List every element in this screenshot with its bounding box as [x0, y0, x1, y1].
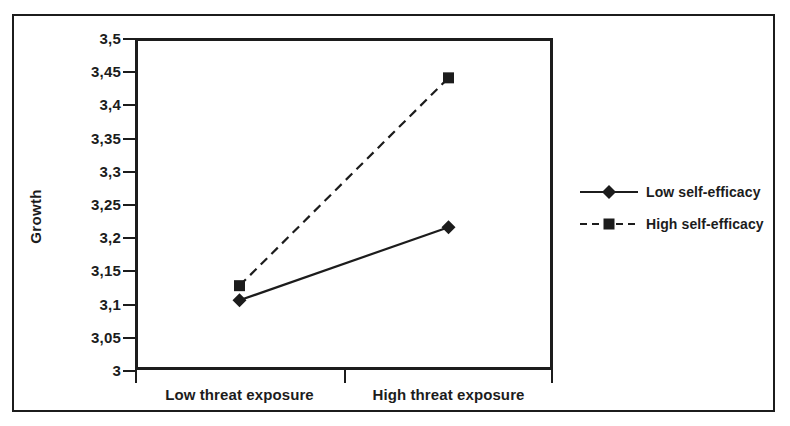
y-axis-title-label: Growth — [27, 189, 44, 243]
y-axis-tick-labels: 33,053,13,153,23,253,33,353,43,453,5 — [55, 38, 121, 370]
square-marker-icon — [604, 219, 615, 230]
chart-legend: Low self-efficacyHigh self-efficacy — [578, 176, 768, 240]
legend-swatch — [578, 215, 640, 233]
y-axis-title: Growth — [22, 156, 48, 276]
series-low-self-efficacy — [233, 220, 456, 307]
y-axis-tick-label: 3,2 — [100, 230, 121, 245]
x-axis-label-low-threat: Low threat exposure — [135, 386, 344, 408]
y-axis-tick-label: 3,45 — [91, 64, 121, 79]
x-axis-tick-mark — [135, 370, 137, 383]
y-axis-tick-label: 3,25 — [91, 197, 121, 212]
y-axis-tick-label: 3,05 — [91, 329, 121, 344]
legend-item-label: Low self-efficacy — [640, 184, 761, 200]
legend-item-label: High self-efficacy — [640, 216, 764, 232]
y-axis-tick-label: 3,35 — [91, 130, 121, 145]
series-line — [240, 227, 449, 300]
y-axis-tick-label: 3 — [112, 363, 121, 378]
chart-figure: Growth 33,053,13,153,23,253,33,353,43,45… — [0, 0, 790, 426]
plot-series-layer — [135, 38, 553, 370]
series-high-self-efficacy — [234, 72, 454, 291]
y-axis-tick-label: 3,15 — [91, 263, 121, 278]
x-axis-tick-marks — [135, 370, 553, 384]
x-axis-tick-mark — [551, 370, 553, 383]
diamond-marker-icon — [442, 220, 456, 234]
square-marker-icon — [234, 280, 245, 291]
series-line — [240, 78, 449, 286]
x-axis-label-high-threat: High threat exposure — [344, 386, 553, 408]
x-axis-tick-labels: Low threat exposure High threat exposure — [135, 386, 553, 408]
diamond-marker-icon — [602, 185, 616, 199]
legend-swatch — [578, 183, 640, 201]
y-axis-tick-label: 3,4 — [100, 97, 121, 112]
y-axis-tick-label: 3,5 — [100, 31, 121, 46]
legend-item[interactable]: Low self-efficacy — [578, 176, 768, 208]
diamond-marker-icon — [233, 293, 247, 307]
square-marker-icon — [443, 72, 454, 83]
y-axis-tick-label: 3,3 — [100, 163, 121, 178]
x-axis-tick-mark — [344, 370, 346, 383]
legend-item[interactable]: High self-efficacy — [578, 208, 768, 240]
y-axis-tick-label: 3,1 — [100, 296, 121, 311]
